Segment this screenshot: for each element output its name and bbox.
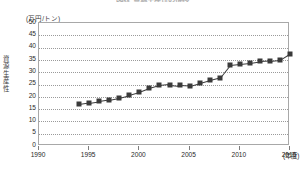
- y-axis-tick-label: 0: [12, 142, 36, 149]
- data-point-marker: [97, 99, 102, 104]
- y-axis-tick-label: 5: [12, 129, 36, 136]
- data-series: [39, 23, 288, 144]
- x-axis-tick-label: 1995: [81, 151, 96, 158]
- chart-figure: 図表 資源生産性の推移 (万円/トン) 資源生産性 05101520253035…: [0, 0, 305, 176]
- data-point-marker: [247, 60, 252, 65]
- y-axis-title: 資源生産性: [1, 55, 10, 92]
- plot-area: [38, 22, 289, 145]
- y-axis-tick-label: 50: [12, 19, 36, 26]
- x-axis-tick-label: 2005: [181, 151, 196, 158]
- data-point-marker: [167, 82, 172, 87]
- data-point-marker: [177, 83, 182, 88]
- data-point-marker: [77, 102, 82, 107]
- x-axis-tick-label: 2000: [131, 151, 146, 158]
- y-axis-tick-label: 20: [12, 93, 36, 100]
- x-axis-tick-label: 1990: [31, 151, 46, 158]
- x-axis-tick-mark: [138, 146, 139, 150]
- x-axis-tick-mark: [88, 146, 89, 150]
- x-axis-tick-mark: [38, 146, 39, 150]
- y-axis-tick-label: 30: [12, 68, 36, 75]
- data-point-marker: [107, 97, 112, 102]
- y-axis-tick-label: 40: [12, 43, 36, 50]
- x-axis-tick-labels: 199019952000200520102015: [38, 146, 289, 160]
- y-axis-tick-labels: 05101520253035404550: [10, 22, 36, 145]
- y-axis-tick-label: 10: [12, 117, 36, 124]
- data-point-marker: [288, 51, 293, 56]
- x-axis-tick-mark: [289, 146, 290, 150]
- data-point-marker: [157, 83, 162, 88]
- x-axis-tick-mark: [239, 146, 240, 150]
- y-axis-tick-label: 45: [12, 31, 36, 38]
- data-point-marker: [237, 61, 242, 66]
- chart-title: 図表 資源生産性の推移: [0, 0, 305, 2]
- x-axis-tick-label: 2010: [231, 151, 246, 158]
- y-axis-tick-label: 15: [12, 105, 36, 112]
- data-point-marker: [227, 62, 232, 67]
- data-point-marker: [137, 90, 142, 95]
- y-axis-tick-label: 35: [12, 56, 36, 63]
- x-axis-unit-label: (年度): [283, 151, 299, 160]
- data-point-marker: [147, 86, 152, 91]
- data-point-marker: [217, 75, 222, 80]
- data-point-marker: [117, 95, 122, 100]
- data-point-marker: [87, 100, 92, 105]
- y-axis-tick-label: 25: [12, 80, 36, 87]
- x-axis-tick-mark: [189, 146, 190, 150]
- data-point-marker: [207, 78, 212, 83]
- data-point-marker: [267, 58, 272, 63]
- data-point-marker: [277, 57, 282, 62]
- data-point-marker: [187, 83, 192, 88]
- data-point-marker: [127, 93, 132, 98]
- data-point-marker: [197, 81, 202, 86]
- data-point-marker: [257, 59, 262, 64]
